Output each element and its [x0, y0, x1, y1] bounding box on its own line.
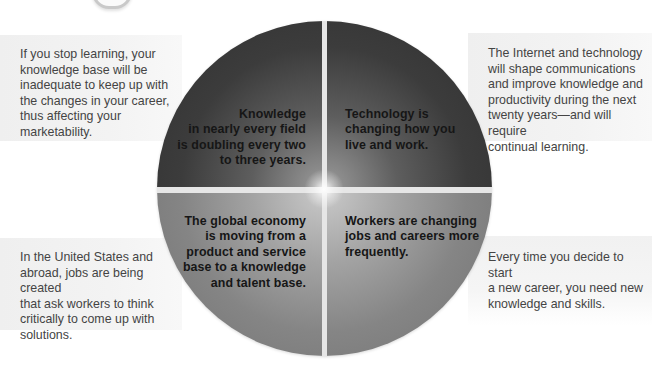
note-top-left: If you stop learning, your knowledge bas…	[0, 35, 182, 141]
note-line: the changes in your career,	[20, 94, 176, 110]
quadrant-line: is moving from a	[183, 229, 306, 244]
center-glow-decoration	[304, 169, 344, 209]
note-line: marketability.	[20, 125, 176, 141]
quadrant-line: The global economy	[183, 214, 306, 229]
quadrant-line: changing how you	[345, 122, 455, 137]
quadrant-line: base to a knowledge	[183, 260, 306, 275]
note-line: that ask workers to think	[20, 297, 178, 313]
quadrant-circle: Knowledge in nearly every field is doubl…	[157, 21, 492, 356]
note-bottom-right: Every time you decide to start a new car…	[468, 236, 652, 326]
quadrant-line: live and work.	[345, 138, 455, 153]
note-line: critically to come up with	[20, 312, 178, 328]
quadrant-text-technology: Technology is changing how you live and …	[345, 107, 455, 153]
quadrant-text-knowledge: Knowledge in nearly every field is doubl…	[177, 107, 306, 169]
quadrant-text-workers: Workers are changing jobs and careers mo…	[345, 214, 479, 260]
note-line: knowledge base will be	[20, 63, 176, 79]
quadrant-top-left: Knowledge in nearly every field is doubl…	[157, 21, 322, 187]
quadrant-bottom-right: Workers are changing jobs and careers mo…	[327, 193, 492, 356]
quadrant-text-global-economy: The global economy is moving from a prod…	[183, 214, 306, 291]
quadrant-line: is doubling every two	[177, 138, 306, 153]
note-line: knowledge and skills.	[488, 297, 648, 313]
quadrant-line: Technology is	[345, 107, 455, 122]
top-ornament-decoration	[92, 0, 132, 9]
note-bottom-left: In the United States and abroad, jobs ar…	[0, 238, 182, 330]
quadrant-line: product and service	[183, 245, 306, 260]
note-line: If you stop learning, your	[20, 47, 176, 63]
note-line: The Internet and technology	[488, 46, 648, 62]
quadrant-line: to three years.	[177, 153, 306, 168]
note-line: productivity during the next	[488, 93, 648, 109]
note-line: will shape communications	[488, 62, 648, 78]
quadrant-bottom-left: The global economy is moving from a prod…	[157, 193, 322, 356]
note-line: a new career, you need new	[488, 281, 648, 297]
note-line: twenty years—and will require	[488, 108, 648, 139]
note-line: In the United States and	[20, 250, 178, 266]
note-line: abroad, jobs are being created	[20, 266, 178, 297]
note-line: solutions.	[20, 328, 178, 344]
note-line: continual learning.	[488, 140, 648, 156]
note-line: and improve knowledge and	[488, 77, 648, 93]
quadrant-line: in nearly every field	[177, 122, 306, 137]
quadrant-line: and talent base.	[183, 276, 306, 291]
note-line: thus affecting your	[20, 109, 176, 125]
quadrant-line: Workers are changing	[345, 214, 479, 229]
quadrant-top-right: Technology is changing how you live and …	[327, 21, 492, 187]
quadrant-line: Knowledge	[177, 107, 306, 122]
note-line: inadequate to keep up with	[20, 78, 176, 94]
quadrant-line: jobs and careers more	[345, 229, 479, 244]
quadrant-line: frequently.	[345, 245, 479, 260]
note-line: Every time you decide to start	[488, 250, 648, 281]
note-top-right: The Internet and technology will shape c…	[468, 33, 652, 141]
